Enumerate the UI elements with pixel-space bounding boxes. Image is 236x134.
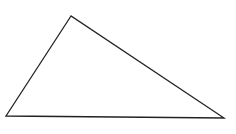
triangle-shape [6,16,224,118]
triangle-diagram [0,0,236,134]
